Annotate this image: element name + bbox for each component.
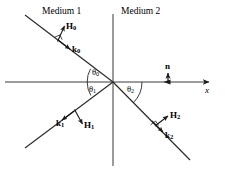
H1-arrow bbox=[75, 110, 83, 125]
theta2-label: θ2 bbox=[127, 85, 134, 94]
k0-arrow bbox=[58, 40, 70, 49]
medium-1-label: Medium 1 bbox=[42, 7, 81, 17]
H1-label: H1 bbox=[84, 121, 94, 131]
H2-label: H2 bbox=[170, 111, 180, 121]
x-axis-label: x bbox=[205, 86, 209, 95]
normal-vector-label: ˄ n bbox=[165, 62, 226, 71]
normal-vector-marker bbox=[164, 73, 171, 84]
n-hat-base-arrowhead bbox=[164, 80, 171, 85]
H2-arrow bbox=[155, 116, 168, 126]
theta1-label: θ1 bbox=[89, 85, 96, 94]
k1-label: k1 bbox=[56, 119, 64, 129]
transmitted-ray bbox=[113, 82, 190, 160]
H0-arrow bbox=[58, 26, 65, 42]
medium-2-label: Medium 2 bbox=[121, 7, 160, 17]
theta0-arc bbox=[87, 69, 90, 82]
diagram-canvas bbox=[0, 0, 226, 177]
theta0-label: θ0 bbox=[92, 68, 99, 77]
H0-label: H0 bbox=[66, 22, 76, 32]
ray-diagram: Medium 1 Medium 2 H0 k0 k1 H1 H2 k2 θ0 θ… bbox=[0, 0, 226, 177]
normal-letter: n bbox=[165, 61, 170, 71]
k0-label: k0 bbox=[72, 45, 80, 55]
k2-label: k2 bbox=[165, 131, 173, 141]
theta2-arc bbox=[134, 82, 143, 103]
